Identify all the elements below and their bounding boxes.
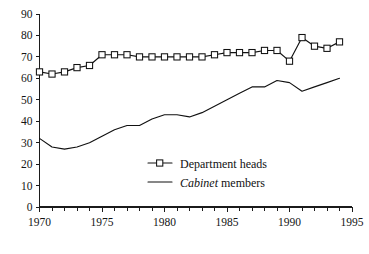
data-point-marker: [299, 34, 305, 40]
chart-container: 0102030405060708090 19701975198019851990…: [0, 0, 369, 254]
legend-square-icon: [157, 160, 163, 166]
data-point-marker: [61, 69, 67, 75]
x-tick-label: 1985: [216, 216, 239, 228]
x-tick-label: 1970: [28, 216, 51, 228]
data-point-marker: [136, 54, 142, 60]
y-tick-label: 30: [21, 137, 33, 149]
y-tick-label: 90: [21, 8, 33, 20]
series-markers-department-heads: [36, 34, 342, 77]
x-tick-label: 1975: [91, 216, 114, 228]
y-tick-label: 60: [21, 72, 33, 84]
line-chart: 0102030405060708090 19701975198019851990…: [0, 0, 369, 254]
data-point-marker: [311, 43, 317, 49]
data-point-marker: [286, 58, 292, 64]
data-point-marker: [111, 52, 117, 58]
y-axis-ticks: 0102030405060708090: [21, 8, 40, 213]
y-tick-label: 50: [21, 94, 33, 106]
data-point-marker: [149, 54, 155, 60]
data-point-marker: [86, 62, 92, 68]
data-point-marker: [186, 54, 192, 60]
data-point-marker: [249, 50, 255, 56]
y-tick-label: 10: [21, 180, 33, 192]
y-tick-label: 70: [21, 51, 33, 63]
data-point-marker: [261, 47, 267, 53]
chart-legend: Department heads Cabinet members: [148, 157, 267, 190]
data-point-marker: [161, 54, 167, 60]
data-point-marker: [324, 45, 330, 51]
y-tick-label: 0: [27, 201, 33, 213]
legend-label-cabinet-members: Cabinet members: [180, 176, 265, 190]
data-point-marker: [211, 52, 217, 58]
x-axis-ticks: 197019751980198519901995: [28, 207, 364, 228]
y-tick-label: 40: [21, 115, 33, 127]
data-point-marker: [124, 52, 130, 58]
x-tick-label: 1980: [153, 216, 176, 228]
data-point-marker: [199, 54, 205, 60]
legend-label-department-heads: Department heads: [180, 157, 267, 171]
x-tick-label: 1995: [341, 216, 364, 228]
data-point-marker: [49, 71, 55, 77]
data-point-marker: [336, 39, 342, 45]
data-point-marker: [236, 50, 242, 56]
y-tick-label: 20: [21, 158, 33, 170]
data-point-marker: [99, 52, 105, 58]
data-point-marker: [224, 50, 230, 56]
data-point-marker: [74, 65, 80, 71]
x-tick-label: 1990: [278, 216, 301, 228]
data-point-marker: [36, 69, 42, 75]
y-tick-label: 80: [21, 29, 33, 41]
data-point-marker: [274, 47, 280, 53]
series-line-cabinet-members: [40, 78, 340, 149]
data-point-marker: [174, 54, 180, 60]
